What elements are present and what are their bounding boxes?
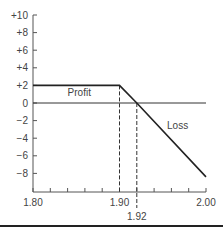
y-tick-label: +4 — [17, 62, 29, 73]
y-tick-label: −4 — [17, 133, 29, 144]
payoff-chart: +10+8+6+4+20−2−4−6−8 1.801.902.001.92 Pr… — [0, 0, 223, 229]
profit-label: Profit — [68, 87, 92, 98]
x-axis: 1.801.902.001.92 — [23, 188, 216, 222]
reference-lines — [33, 85, 206, 208]
y-tick-label: +6 — [17, 45, 29, 56]
y-tick-label: +2 — [17, 80, 29, 91]
x-tick-label: 2.00 — [196, 197, 216, 208]
y-tick-label: −8 — [17, 168, 29, 179]
loss-label: Loss — [167, 120, 188, 131]
x-tick-label: 1.90 — [110, 197, 130, 208]
bottom-rule — [0, 225, 223, 227]
y-tick-label: +8 — [17, 27, 29, 38]
y-tick-label: −6 — [17, 150, 29, 161]
x-tick-label: 1.80 — [23, 197, 43, 208]
y-tick-label: −2 — [17, 115, 29, 126]
x-breakeven-label: 1.92 — [127, 211, 147, 222]
y-tick-label: +10 — [11, 10, 28, 21]
y-tick-label: 0 — [22, 98, 28, 109]
y-axis: +10+8+6+4+20−2−4−6−8 — [11, 10, 37, 193]
